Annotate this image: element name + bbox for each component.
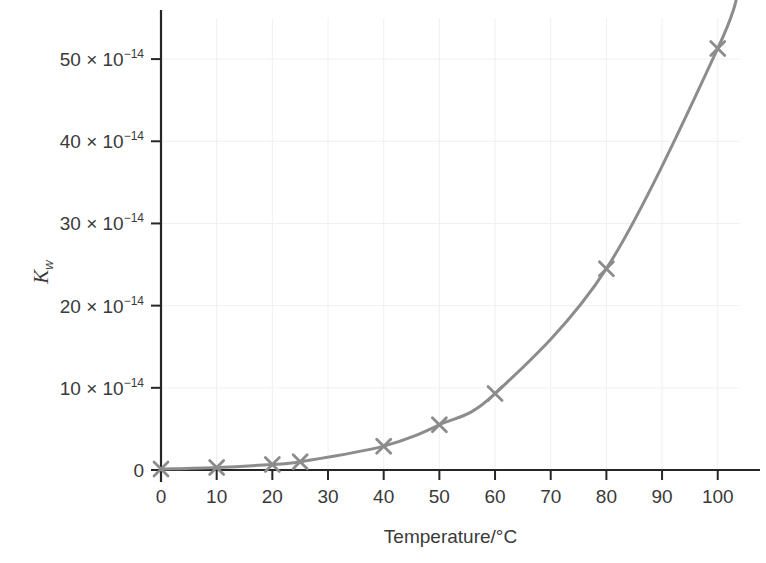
x-tick-label: 60 xyxy=(484,486,505,507)
x-tick-label: 70 xyxy=(540,486,561,507)
x-tick-label: 30 xyxy=(317,486,338,507)
x-tick-label: 0 xyxy=(156,486,167,507)
chart-container: 0102030405060708090100010 × 10−1420 × 10… xyxy=(0,0,766,563)
x-tick-label: 20 xyxy=(262,486,283,507)
x-tick-label: 10 xyxy=(206,486,227,507)
y-tick-label: 0 xyxy=(133,460,144,481)
x-tick-label: 90 xyxy=(651,486,672,507)
x-tick-label: 40 xyxy=(373,486,394,507)
x-tick-label: 100 xyxy=(702,486,734,507)
x-axis-title: Temperature/°C xyxy=(384,526,517,547)
x-tick-label: 50 xyxy=(429,486,450,507)
x-tick-label: 80 xyxy=(596,486,617,507)
kw-vs-temperature-chart: 0102030405060708090100010 × 10−1420 × 10… xyxy=(0,0,766,563)
